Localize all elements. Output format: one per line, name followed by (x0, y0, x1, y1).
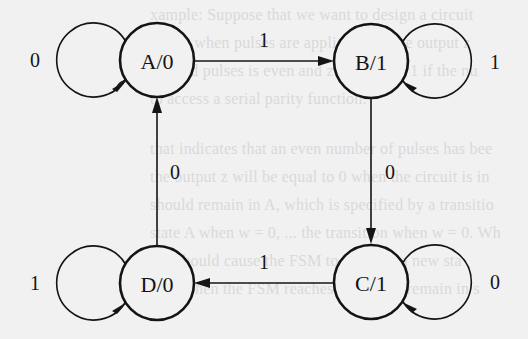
state-A: A/0 (120, 23, 194, 97)
arrowhead-icon (402, 81, 417, 92)
state-C-label: C/1 (355, 271, 387, 296)
arrowhead-icon (402, 302, 417, 313)
edge-C-to-D-label: 1 (259, 251, 269, 273)
state-A-label: A/0 (141, 49, 174, 74)
fsm-state-diagram: 0 1 0 1 1 0 1 0 A/0 (0, 0, 528, 339)
self-loop-A: 0 (30, 23, 127, 97)
arrow-left-icon (194, 278, 210, 288)
arrow-up-icon (152, 97, 162, 113)
self-loop-B-label: 1 (490, 51, 500, 73)
edge-B-to-C-label: 0 (385, 161, 395, 183)
self-loop-D-label: 1 (30, 272, 40, 294)
edge-A-to-B: 1 (194, 29, 334, 66)
edge-A-to-B-label: 1 (259, 29, 269, 51)
arrow-down-icon (366, 228, 376, 244)
state-D: D/0 (120, 246, 194, 320)
state-D-label: D/0 (141, 272, 174, 297)
self-loop-A-label: 0 (30, 49, 40, 71)
self-loop-C: 0 (402, 245, 500, 319)
state-B: B/1 (334, 24, 408, 98)
self-loop-B: 1 (402, 24, 500, 98)
arrow-right-icon (318, 56, 334, 66)
self-loop-D: 1 (30, 246, 127, 320)
edge-D-to-A-label: 0 (170, 161, 180, 183)
state-C: C/1 (334, 245, 408, 319)
edge-D-to-A: 0 (152, 97, 180, 246)
arrowhead-icon (112, 302, 127, 314)
edge-C-to-D: 1 (194, 251, 334, 288)
self-loop-C-label: 0 (490, 271, 500, 293)
edge-B-to-C: 0 (366, 98, 395, 244)
state-B-label: B/1 (355, 50, 387, 75)
